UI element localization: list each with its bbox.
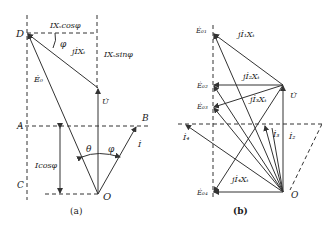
phi-top-arc [53, 33, 56, 48]
i4-label: İ₄ [182, 133, 189, 142]
e0-phasor-arrow [28, 34, 98, 194]
i-phasor-arrow [98, 127, 136, 194]
point-b-label: B [141, 113, 149, 123]
e0-label: Ė₀ [33, 75, 44, 84]
theta-phi-arc [82, 154, 120, 158]
ixs-cos-label: IXₛcosφ [49, 21, 81, 30]
point-c-label: C [17, 180, 24, 190]
phasor-diagrams: D A B C O IXₛcosφ IXₛsinφ jİXₜ Ė₀ U̇ İ I… [0, 0, 322, 229]
j3x-phasor-arrow [214, 85, 283, 107]
jixs-label: jİXₜ [70, 47, 85, 56]
phi-top-label: φ [60, 39, 67, 49]
caption-b: (b) [233, 206, 248, 216]
u-label: U̇ [290, 91, 297, 100]
j2x-label: jİ₂Xₜ [241, 72, 260, 81]
point-o-label: O [103, 191, 111, 202]
phi-bottom-label: φ [108, 144, 115, 154]
ixs-sin-label: IXₛsinφ [103, 50, 133, 59]
e02-label: Ė₀₂ [196, 81, 208, 90]
e01-label: Ė₀₁ [195, 26, 207, 35]
figure-b: Ė₀₁ Ė₀₂ Ė₀₃ Ė₀₄ jİ₁Xₜ jİ₂Xₜ jİ₃Xₜ jİ₄Xₜ … [178, 25, 322, 216]
figure-a: D A B C O IXₛcosφ IXₛsinφ jİXₜ Ė₀ U̇ İ I… [15, 15, 150, 216]
caption-a: (a) [70, 206, 82, 216]
i3-label: İ₃ [272, 130, 279, 139]
j1x-label: jİ₁Xₜ [236, 30, 255, 39]
point-d-label: D [15, 28, 24, 39]
e03-label: Ė₀₃ [196, 102, 208, 111]
u-label: U̇ [102, 97, 109, 106]
point-o-label: O [291, 190, 299, 200]
icos-label: Icosφ [34, 161, 58, 170]
j3x-label: jİ₃Xₜ [248, 95, 267, 104]
j4x-label: jİ₄Xₜ [230, 175, 249, 184]
theta-label: θ [86, 144, 92, 154]
point-a-label: A [16, 121, 24, 131]
i-label: İ [137, 140, 142, 149]
i2-label: İ₂ [288, 132, 295, 141]
e04-label: Ė₀₄ [196, 188, 208, 197]
